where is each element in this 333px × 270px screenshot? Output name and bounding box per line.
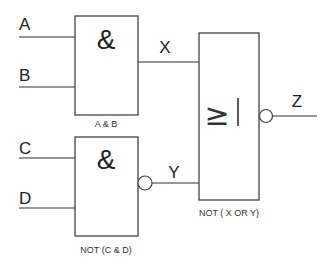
logic-diagram: A B C D & A & B X & NOT (C & D) Y ≥ NOT …: [0, 0, 333, 270]
signal-label-y: Y: [168, 163, 179, 182]
input-label-d: D: [19, 189, 31, 208]
signal-label-z: Z: [292, 92, 302, 111]
nor-gate-symbol: ≥: [204, 97, 229, 132]
input-label-b: B: [19, 66, 30, 85]
input-label-a: A: [19, 15, 31, 34]
nor-inverter-bubble: [260, 110, 273, 123]
nor-gate-caption: NOT ( X OR Y): [199, 208, 259, 218]
nand-gate-symbol: &: [97, 144, 116, 175]
input-label-c: C: [19, 139, 31, 158]
nand-inverter-bubble: [138, 176, 152, 190]
nand-gate-caption: NOT (C & D): [80, 245, 131, 255]
and-gate-1-caption: A & B: [95, 119, 118, 129]
signal-label-x: X: [159, 38, 170, 57]
and-gate-1-symbol: &: [97, 24, 116, 55]
